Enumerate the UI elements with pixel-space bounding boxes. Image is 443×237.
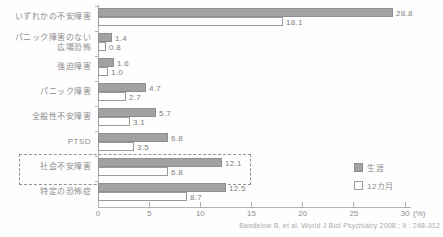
category-label: 社会不安障害 [0,162,91,172]
bar-value-label: 5.7 [159,108,171,117]
bar-12month [98,67,108,76]
y-tick [95,131,98,132]
bar-lifetime [98,108,156,117]
bar-lifetime [98,158,222,167]
x-tick [302,202,303,207]
legend-label-12month: 12カ月 [367,180,394,191]
bar-lifetime [98,58,114,67]
bar-12month [98,92,126,101]
bar-12month [98,167,168,176]
bar-lifetime [98,8,393,17]
y-tick [95,81,98,82]
legend-swatch-lifetime-icon [354,163,363,172]
x-tick-label: 0 [86,209,110,218]
bar-value-label: 12.5 [229,183,246,192]
x-tick [149,202,150,207]
citation-text: Bandelow B, et al. World J Biol Psychiat… [239,222,440,229]
bar-value-label: 6.8 [171,167,183,176]
category-label: パニック障害のない 広場恐怖 [0,33,91,52]
bar-lifetime [98,183,226,192]
bar-12month [98,42,106,51]
bar-lifetime [98,133,168,142]
bar-value-label: 0.8 [109,42,121,51]
legend-item-12month: 12カ月 [354,181,394,190]
bar-value-label: 18.1 [286,17,303,26]
legend: 生涯 12カ月 [354,163,394,199]
bar-12month [98,17,283,26]
y-tick [95,181,98,182]
y-tick [95,56,98,57]
bar-12month [98,192,187,201]
bar-value-label: 2.7 [129,92,141,101]
x-axis-line [98,207,411,208]
bar-value-label: 3.5 [137,142,149,151]
y-tick [95,6,98,7]
x-tick-label: 25 [342,209,366,218]
bar-value-label: 6.8 [171,133,183,142]
legend-item-lifetime: 生涯 [354,163,394,172]
x-tick-label: 5 [137,209,161,218]
x-tick-label: 30 [393,209,417,218]
x-tick [98,202,99,207]
category-label: いずれかの不安障害 [0,12,91,22]
y-tick [95,156,98,157]
bar-value-label: 8.7 [190,192,202,201]
bar-value-label: 1.4 [115,33,127,42]
bar-lifetime [98,83,146,92]
y-tick [95,31,98,32]
category-label: パニック障害 [0,87,91,97]
bar-12month [98,142,134,151]
bar-value-label: 28.8 [396,8,413,17]
bar-lifetime [98,33,112,42]
x-tick [200,202,201,207]
category-label: PTSD [0,137,91,147]
bar-value-label: 1.0 [111,67,123,76]
bar-value-label: 3.1 [133,117,145,126]
bar-12month [98,117,130,126]
category-label: 強迫障害 [0,62,91,72]
legend-swatch-12month-icon [354,181,363,190]
legend-label-lifetime: 生涯 [367,162,384,173]
bar-value-label: 4.7 [149,83,161,92]
x-tick-label: 15 [240,209,264,218]
y-tick [95,106,98,107]
bar-value-label: 12.1 [225,158,242,167]
category-label: 特定の恐怖症 [0,187,91,197]
x-tick [405,202,406,207]
x-tick [251,202,252,207]
x-tick-label: 20 [291,209,315,218]
category-label: 全般性不安障害 [0,112,91,122]
x-tick-label: 10 [188,209,212,218]
anxiety-prevalence-chart: (%) 生涯 12カ月 Bandelow B, et al. World J B… [0,0,443,237]
bar-value-label: 1.6 [117,58,129,67]
x-tick [353,202,354,207]
